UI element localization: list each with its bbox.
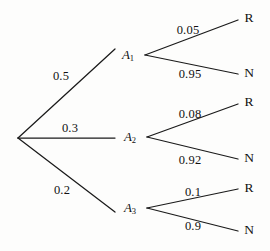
node-a1: A1 [122, 48, 134, 63]
probability-label-a1: 0.5 [53, 70, 69, 83]
leaf-a2-n: N [244, 151, 254, 165]
node-a3: A3 [124, 201, 136, 216]
probability-label-a2-r: 0.08 [179, 108, 202, 121]
node-a2-name: A [124, 129, 132, 144]
probability-label-a3: 0.2 [54, 184, 70, 197]
leaf-a3-r: R [244, 181, 253, 195]
probability-label-a3-r: 0.1 [185, 186, 201, 199]
leaf-a1-r: R [244, 11, 253, 25]
node-a2: A2 [124, 130, 136, 145]
node-a3-subscript: 3 [132, 206, 136, 216]
leaf-a2-r: R [244, 95, 253, 109]
node-a1-subscript: 1 [130, 53, 134, 63]
probability-label-a1-r: 0.05 [177, 24, 200, 37]
node-a2-subscript: 2 [132, 135, 136, 145]
leaf-a1-n: N [244, 66, 254, 80]
probability-label-a2-n: 0.92 [179, 154, 202, 167]
node-a3-name: A [124, 200, 132, 215]
probability-tree-diagram: 0.5 0.3 0.2 A1 A2 A3 0.05 0.95 0.08 0.92… [0, 0, 270, 251]
node-a1-name: A [122, 47, 130, 62]
edge-root-to-a3 [18, 138, 115, 212]
probability-label-a1-n: 0.95 [179, 68, 202, 81]
probability-label-a2: 0.3 [62, 122, 78, 135]
leaf-a3-n: N [244, 223, 254, 237]
probability-label-a3-n: 0.9 [185, 220, 201, 233]
